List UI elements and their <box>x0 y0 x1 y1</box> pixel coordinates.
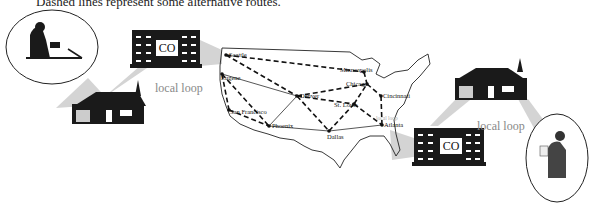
person-on-phone-right-bubble <box>526 114 588 202</box>
city-seattle: Seattle <box>224 51 247 58</box>
svg-text:Atlanta: Atlanta <box>384 121 403 128</box>
svg-text:Denver: Denver <box>300 92 320 99</box>
city-st-louis: St. Louis <box>334 101 358 108</box>
network-diagram: CO local loop <box>0 0 598 206</box>
person-on-phone-left-bubble <box>6 10 98 84</box>
svg-text:Seattle: Seattle <box>229 51 247 58</box>
local-loop-label-right: local loop <box>477 119 525 133</box>
city-cincinnati: Cincinnati <box>379 92 410 99</box>
svg-text:Chicago: Chicago <box>346 80 368 87</box>
central-office-right: CO <box>412 128 486 166</box>
city-dallas: Dallas <box>327 129 344 140</box>
house-right <box>455 58 527 100</box>
wedge-house-to-co-right <box>430 100 470 126</box>
city-phoenix: Phoenix <box>267 122 294 129</box>
local-loop-label-left: local loop <box>155 81 203 95</box>
city-atlanta: Atlanta <box>380 121 403 128</box>
svg-text:Cincinnati: Cincinnati <box>383 92 410 99</box>
svg-text:Eugene: Eugene <box>221 74 241 81</box>
co-label-right: CO <box>443 139 460 153</box>
svg-text:St. Louis: St. Louis <box>334 101 358 108</box>
city-eugene: Eugene <box>220 72 240 81</box>
city-chicago: Chicago <box>346 80 369 87</box>
svg-text:Minneapolis: Minneapolis <box>340 66 373 73</box>
svg-text:Dallas: Dallas <box>327 133 344 140</box>
svg-text:San Francisco: San Francisco <box>230 108 267 115</box>
city-minneapolis: Minneapolis <box>340 66 373 74</box>
city-san-francisco: San Francisco <box>227 108 266 115</box>
central-office-left: CO <box>130 30 202 68</box>
wedge-co-to-map-left <box>200 40 222 66</box>
co-label-left: CO <box>159 41 176 55</box>
svg-text:Phoenix: Phoenix <box>272 122 294 129</box>
local-loop-map-label: local loop <box>376 115 398 121</box>
